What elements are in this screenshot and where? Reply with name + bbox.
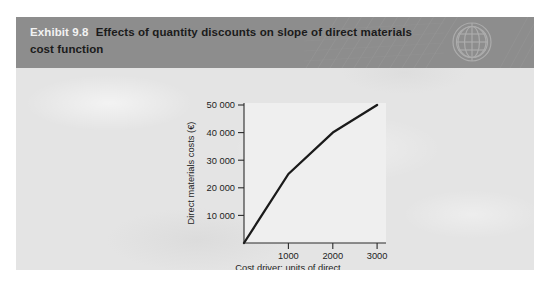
exhibit-header-band: Exhibit 9.8Effects of quantity discounts… (16, 17, 534, 68)
chart-svg: 50 000 40 000 30 000 20 000 10 000 1000 … (168, 68, 408, 268)
x-axis-title: Cost driver: units of direct materials p… (168, 263, 408, 270)
cost-function-chart: 50 000 40 000 30 000 20 000 10 000 1000 … (168, 68, 408, 268)
y-axis-tick-labels: 50 000 40 000 30 000 20 000 10 000 (207, 100, 235, 220)
x-tick-label: 3000 (367, 251, 388, 261)
x-axis-ticks (288, 243, 377, 249)
y-axis-ticks (238, 105, 244, 215)
plot-area-background (244, 103, 386, 243)
exhibit-card: Exhibit 9.8Effects of quantity discounts… (16, 17, 534, 270)
y-tick-label: 50 000 (207, 100, 235, 110)
x-tick-label: 1000 (278, 251, 299, 261)
x-tick-label: 2000 (322, 251, 343, 261)
y-tick-label: 30 000 (207, 156, 235, 166)
exhibit-number: Exhibit 9.8 (30, 26, 89, 38)
y-tick-label: 40 000 (207, 128, 235, 138)
y-axis-title: Direct materials costs (€) (186, 122, 196, 225)
x-axis-title-line1: Cost driver: units of direct (168, 263, 408, 270)
exhibit-title: Exhibit 9.8Effects of quantity discounts… (30, 24, 414, 58)
y-tick-label: 20 000 (207, 183, 235, 193)
y-tick-label: 10 000 (207, 211, 235, 221)
x-axis-tick-labels: 1000 2000 3000 (278, 251, 387, 261)
